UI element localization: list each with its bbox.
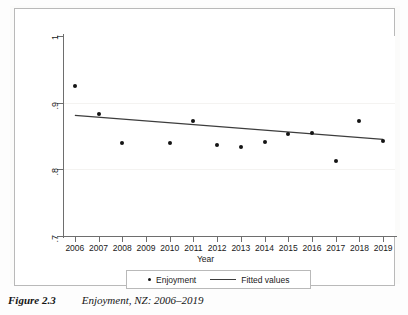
x-tick-mark	[359, 237, 360, 242]
y-tick-label-wrap: .7	[29, 230, 55, 242]
figure-number: Figure 2.3	[8, 294, 56, 306]
x-tick-mark	[383, 237, 384, 242]
y-tick-label-wrap: .8	[29, 163, 55, 175]
x-tick-mark	[75, 237, 76, 242]
data-point	[215, 143, 219, 147]
legend-entry-fitted-values: Fitted values	[210, 275, 289, 285]
x-tick-label-2019: 2019	[368, 243, 398, 253]
y-tick-label-8: .8	[50, 168, 60, 176]
y-tick-label-wrap: 1	[29, 30, 55, 42]
data-point	[73, 84, 77, 88]
solid-line-icon	[210, 279, 236, 280]
chart-legend: Enjoyment Fitted values	[126, 270, 311, 289]
figure-page: 1 .9 .8 .7 20062007200820092010201120122…	[0, 0, 408, 315]
x-tick-mark	[217, 237, 218, 242]
x-tick-mark	[288, 237, 289, 242]
x-tick-mark	[312, 237, 313, 242]
x-tick-mark	[146, 237, 147, 242]
x-tick-mark	[122, 237, 123, 242]
data-point	[381, 139, 385, 143]
y-tick-label-wrap: .9	[29, 97, 55, 109]
data-point	[97, 112, 101, 116]
chart-frame: 1 .9 .8 .7 20062007200820092010201120122…	[14, 8, 395, 286]
x-tick-mark	[241, 237, 242, 242]
fitted-values-line	[63, 36, 395, 236]
data-point	[168, 141, 172, 145]
x-tick-mark	[193, 237, 194, 242]
x-axis-line	[61, 236, 397, 237]
data-point	[334, 159, 338, 163]
figure-caption: Figure 2.3 Enjoyment, NZ: 2006–2019	[8, 294, 204, 306]
x-tick-mark	[170, 237, 171, 242]
figure-caption-text: Enjoyment, NZ: 2006–2019	[82, 294, 204, 306]
x-tick-mark	[99, 237, 100, 242]
legend-entry-enjoyment: Enjoyment	[148, 275, 197, 285]
data-point	[263, 140, 267, 144]
legend-label-enjoyment: Enjoyment	[156, 275, 196, 285]
x-axis-title: Year	[15, 254, 396, 264]
data-point	[120, 141, 124, 145]
x-tick-mark	[336, 237, 337, 242]
y-tick-label-7: .7	[50, 235, 60, 243]
legend-label-fitted-values: Fitted values	[241, 275, 289, 285]
filled-circle-marker-icon	[148, 278, 152, 282]
x-tick-mark	[265, 237, 266, 242]
y-tick-label-1: 1	[50, 35, 60, 40]
data-point	[310, 131, 314, 135]
y-tick-label-9: .9	[50, 102, 60, 110]
